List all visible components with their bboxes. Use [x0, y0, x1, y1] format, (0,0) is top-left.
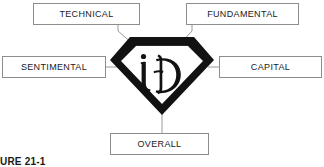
node-overall-label: OVERALL	[138, 140, 182, 149]
node-fundamental-label: FUNDAMENTAL	[207, 10, 278, 19]
node-capital-label: CAPITAL	[251, 63, 290, 72]
node-technical[interactable]: TECHNICAL	[33, 3, 140, 25]
diamond-shield-logo-icon	[106, 31, 218, 119]
node-capital[interactable]: CAPITAL	[219, 56, 322, 78]
figure-diagram: TECHNICAL FUNDAMENTAL SENTIMENTAL CAPITA…	[0, 0, 324, 167]
node-overall[interactable]: OVERALL	[110, 133, 209, 155]
id-monogram	[141, 54, 181, 94]
node-sentimental[interactable]: SENTIMENTAL	[2, 56, 106, 78]
figure-caption: URE 21-1	[0, 156, 46, 167]
node-sentimental-label: SENTIMENTAL	[21, 63, 87, 72]
node-fundamental[interactable]: FUNDAMENTAL	[186, 3, 299, 25]
node-technical-label: TECHNICAL	[59, 10, 113, 19]
